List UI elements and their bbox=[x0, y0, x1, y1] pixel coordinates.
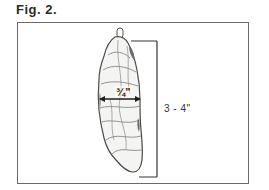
width-label: ¾" bbox=[115, 86, 131, 98]
bundle-body bbox=[98, 37, 142, 172]
length-label: 3 - 4" bbox=[164, 103, 191, 115]
wrapped-bundle-illustration bbox=[0, 0, 269, 190]
